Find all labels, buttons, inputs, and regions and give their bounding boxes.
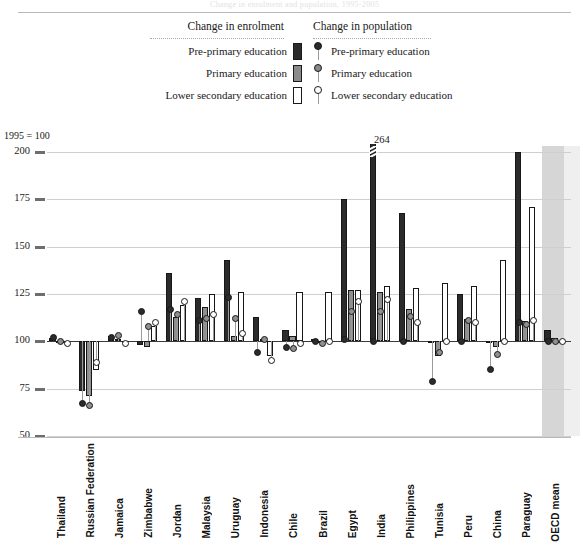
marker-jordan-1: [174, 311, 181, 318]
legend-item-enrolment-lowersecondary: Lower secondary education: [150, 85, 302, 105]
x-axis-label-russian-federation: Russian Federation: [85, 443, 96, 538]
marker-chile-2: [297, 340, 304, 347]
y-tick-150: [35, 246, 45, 249]
bar-china-2: [500, 260, 506, 341]
x-axis-label-malaysia: Malaysia: [201, 496, 212, 539]
gridline-150: [47, 247, 571, 248]
marker-uruguay-2: [239, 330, 246, 337]
bar-paraguay-0: [515, 152, 521, 341]
y-tick-75: [35, 388, 45, 391]
x-axis-label-brazil: Brazil: [318, 510, 329, 538]
legend-dotted-rule: [313, 34, 431, 39]
y-tick-label-175: 175: [2, 193, 30, 203]
legend-item-enrolment-primary: Primary education: [150, 63, 302, 83]
x-axis-label-zimbabwe: Zimbabwe: [143, 488, 154, 538]
y-tick-label-125: 125: [2, 288, 30, 298]
bar-peru-0: [457, 294, 463, 341]
x-axis-label-oecd-mean: OECD mean: [550, 483, 561, 542]
marker-egypt-0: [341, 336, 348, 343]
marker-russian-federation-2: [93, 359, 100, 366]
marker-uruguay-1: [232, 315, 239, 322]
marker-jordan-0: [167, 306, 174, 313]
x-axis-divider: [18, 437, 571, 438]
y-tick-label-100: 100: [2, 335, 30, 345]
marker-zimbabwe-0: [138, 308, 145, 315]
y-tick-125: [35, 293, 45, 296]
y-tick-label-150: 150: [2, 241, 30, 251]
y-tick-100: [35, 340, 45, 343]
marker-jamaica-2: [122, 340, 129, 347]
bar-dark-swatch-icon: [293, 43, 302, 60]
marker-jamaica-1: [115, 332, 122, 339]
legend-dotted-rule: [150, 34, 284, 39]
marker-jordan-2: [181, 298, 188, 305]
chart-legend: Change in enrolment Pre-primary educatio…: [150, 20, 480, 112]
bar-tunisia-2: [442, 283, 448, 342]
marker-zimbabwe-1: [145, 323, 152, 330]
marker-oecd-mean-2: [559, 338, 566, 345]
pin-open-icon: [313, 86, 324, 104]
marker-malaysia-0: [196, 317, 203, 324]
x-axis-label-peru: Peru: [463, 515, 474, 538]
cut-off-title: Change in enrolment and population, 1995…: [210, 0, 540, 11]
legend-item-population-preprimary: Pre-primary education: [313, 41, 483, 61]
y-tick-175: [35, 198, 45, 201]
marker-thailand-1: [57, 338, 64, 345]
bar-mid-swatch-icon: [293, 65, 302, 82]
pin-mid-icon: [313, 64, 324, 82]
x-axis-label-egypt: Egypt: [347, 510, 358, 538]
gridline-200: [47, 152, 571, 153]
bar-light-swatch-icon: [293, 87, 302, 104]
marker-paraguay-1: [523, 321, 530, 328]
marker-indonesia-1: [261, 336, 268, 343]
marker-oecd-mean-1: [552, 338, 559, 345]
marker-tunisia-1: [436, 349, 443, 356]
marker-indonesia-0: [254, 349, 261, 356]
x-axis-label-paraguay: Paraguay: [521, 492, 532, 538]
marker-indonesia-2: [268, 357, 275, 364]
marker-peru-1: [465, 317, 472, 324]
gridline-175: [47, 199, 571, 200]
x-axis-label-indonesia: Indonesia: [259, 490, 270, 538]
marker-egypt-2: [355, 298, 362, 305]
marker-tunisia-0: [429, 378, 436, 385]
marker-jamaica-0: [108, 334, 115, 341]
value-annotation-india: 264: [366, 134, 398, 145]
legend-heading-enrolment: Change in enrolment: [150, 20, 302, 33]
figure-root: Change in enrolment and population, 1995…: [0, 0, 583, 553]
legend-heading-population: Change in population: [313, 20, 483, 33]
marker-malaysia-1: [203, 315, 210, 322]
y-tick-label-75: 75: [2, 383, 30, 393]
marker-china-0: [487, 366, 494, 373]
top-divider: [18, 12, 571, 13]
marker-paraguay-2: [530, 317, 537, 324]
marker-peru-0: [458, 338, 465, 345]
marker-tunisia-2: [443, 338, 450, 345]
bar-zimbabwe-0: [137, 341, 143, 345]
marker-russian-federation-1: [86, 402, 93, 409]
bar-zimbabwe-1: [144, 341, 150, 347]
pin-dark-icon: [313, 42, 324, 60]
oecd-mean-shaded-panel-light: [564, 146, 580, 436]
x-axis-label-china: China: [492, 510, 503, 538]
marker-philippines-2: [414, 319, 421, 326]
legend-label: Lower secondary education: [165, 89, 293, 101]
legend-label: Pre-primary education: [324, 45, 430, 57]
legend-label: Pre-primary education: [188, 45, 293, 57]
legend-label: Primary education: [206, 67, 293, 79]
marker-brazil-2: [326, 338, 333, 345]
x-axis-label-uruguay: Uruguay: [230, 497, 241, 538]
x-axis-label-jamaica: Jamaica: [114, 498, 125, 538]
marker-malaysia-2: [210, 311, 217, 318]
marker-china-2: [501, 338, 508, 345]
x-axis-labels: ThailandRussian FederationJamaicaZimbabw…: [47, 441, 571, 546]
legend-label: Primary education: [324, 67, 412, 79]
axis-break-mark: [369, 146, 378, 157]
x-axis-label-jordan: Jordan: [172, 504, 183, 538]
y-tick-label-50: 50: [2, 430, 30, 440]
marker-egypt-1: [348, 308, 355, 315]
bar-brazil-2: [325, 292, 331, 341]
marker-peru-2: [472, 319, 479, 326]
gridline-125: [47, 294, 571, 295]
plot-area: 5075100125150175200264: [47, 146, 571, 436]
